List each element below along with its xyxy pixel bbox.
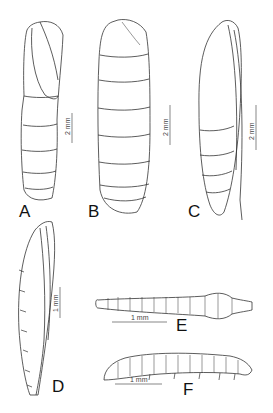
scale-label-f: 1 mm [130, 376, 148, 383]
scale-label-e: 1 mm [131, 314, 149, 321]
panel-label-a: A [19, 203, 30, 220]
panel-label-c: C [188, 203, 200, 220]
panel-label-e: E [176, 317, 187, 334]
panel-b-illustration [98, 20, 150, 214]
scale-label-b: 2 mm [162, 119, 169, 137]
panel-label-b: B [88, 203, 99, 220]
panel-a-illustration [21, 22, 63, 200]
panel-d-illustration [19, 221, 55, 395]
scale-label-a: 2 mm [64, 118, 71, 136]
panel-c-illustration [199, 20, 242, 220]
panel-f-illustration [104, 353, 252, 380]
panel-label-f: F [183, 381, 193, 398]
figure-plate [0, 0, 273, 413]
panel-e-illustration [96, 293, 252, 319]
scale-label-c: 2 mm [248, 123, 255, 141]
scale-label-d: 1 mm [52, 295, 59, 313]
panel-label-d: D [52, 378, 64, 395]
